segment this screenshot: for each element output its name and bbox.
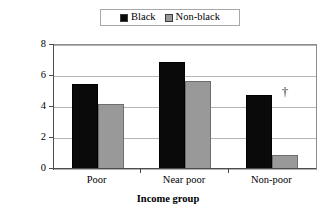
x-axis-title: Income group [0, 194, 336, 205]
x-tick-label-non-poor: Non-poor [221, 175, 321, 186]
bar-near-poor-non-black [185, 81, 211, 169]
y-tick-mark [49, 106, 53, 107]
x-tick-label-near-poor: Near poor [134, 175, 234, 186]
y-tick-mark [49, 168, 53, 169]
bar-non-poor-black [246, 95, 272, 169]
dagger-annotation-icon: † [282, 85, 289, 98]
bar-poor-black [72, 84, 98, 169]
x-tick-mark [140, 169, 141, 173]
y-tick-label: 0 [26, 163, 46, 174]
x-axis-line [53, 168, 316, 169]
chart-canvas: Black Non-black 02468 PoorNear poorNon-p… [0, 0, 336, 216]
y-axis-line [53, 44, 54, 170]
x-tick-mark [228, 169, 229, 173]
legend-label-black: Black [131, 12, 156, 23]
bar-poor-non-black [98, 104, 124, 169]
chart-legend: Black Non-black [100, 9, 240, 26]
legend-entry-non-black: Non-black [165, 12, 220, 23]
bar-non-poor-non-black [272, 155, 298, 169]
y-tick-mark [49, 137, 53, 138]
y-tick-label: 4 [26, 101, 46, 112]
bar-near-poor-black [159, 62, 185, 169]
gridline [54, 45, 316, 46]
plot-area [53, 44, 317, 170]
legend-label-non-black: Non-black [176, 12, 220, 23]
y-tick-label: 2 [26, 132, 46, 143]
gridline [54, 169, 316, 170]
y-tick-mark [49, 44, 53, 45]
x-tick-label-poor: Poor [47, 175, 147, 186]
nonblack-swatch-icon [165, 14, 173, 22]
y-tick-label: 8 [26, 39, 46, 50]
gridline [54, 76, 316, 77]
y-tick-label: 6 [26, 70, 46, 81]
y-tick-mark [49, 75, 53, 76]
black-swatch-icon [120, 14, 128, 22]
legend-entry-black: Black [120, 12, 156, 23]
